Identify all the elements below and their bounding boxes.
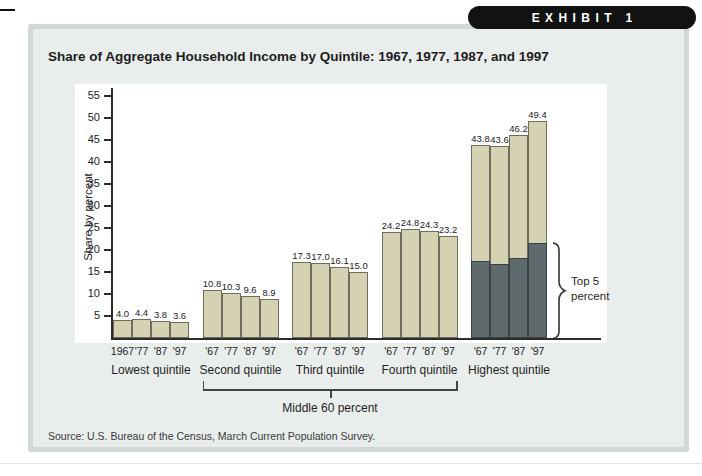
y-tick-mark xyxy=(104,227,111,229)
bar-value-label: 23.2 xyxy=(428,224,468,235)
top5-section-4 xyxy=(528,243,547,338)
bar-4-4 xyxy=(439,236,458,338)
page-bottom-rule xyxy=(0,463,702,464)
y-tick-label: 55 xyxy=(76,89,100,101)
middle60-bracket-right xyxy=(456,381,458,389)
y-tick-label: 5 xyxy=(76,309,100,321)
exhibit-page: EXHIBIT 1 Share of Aggregate Household I… xyxy=(0,0,702,476)
bar-3-2 xyxy=(311,263,330,338)
exhibit-banner: EXHIBIT 1 xyxy=(468,6,696,29)
bar-1-1 xyxy=(113,320,132,338)
bar-2-4 xyxy=(260,299,279,338)
y-tick-label: 50 xyxy=(76,111,100,123)
x-tick-label: '97 xyxy=(518,345,558,357)
bar-2-2 xyxy=(222,293,241,338)
top5-label-line1: Top 5 xyxy=(571,275,599,287)
y-tick-label: 20 xyxy=(76,243,100,255)
top5-section-1 xyxy=(471,261,490,338)
top5-brace xyxy=(551,241,569,340)
y-tick-mark xyxy=(104,161,111,163)
y-tick-label: 45 xyxy=(76,133,100,145)
middle60-label: Middle 60 percent xyxy=(230,401,430,415)
bar-value-label: 49.4 xyxy=(518,109,558,120)
top5-section-3 xyxy=(509,258,528,338)
bar-4-1 xyxy=(382,232,401,338)
x-axis-line xyxy=(111,338,601,340)
bar-1-4 xyxy=(170,322,189,338)
y-axis-line xyxy=(111,88,113,340)
exhibit-banner-label: EXHIBIT 1 xyxy=(526,11,637,25)
y-tick-mark xyxy=(104,139,111,141)
y-tick-mark xyxy=(104,205,111,207)
bar-2-1 xyxy=(203,290,222,338)
y-tick-label: 40 xyxy=(76,155,100,167)
top5-label-line2: percent xyxy=(571,290,609,302)
bar-value-label: 3.6 xyxy=(160,310,200,321)
top5-section-2 xyxy=(490,264,509,338)
y-tick-mark xyxy=(104,95,111,97)
bar-2-3 xyxy=(241,296,260,338)
y-tick-label: 30 xyxy=(76,199,100,211)
y-tick-label: 10 xyxy=(76,287,100,299)
group-label: Highest quintile xyxy=(434,363,584,377)
y-tick-label: 35 xyxy=(76,177,100,189)
middle60-bracket-left xyxy=(203,381,205,389)
chart-layer: 5101520253035404550554.019674.4'773.8'87… xyxy=(0,0,702,476)
y-tick-mark xyxy=(104,183,111,185)
bar-3-3 xyxy=(330,267,349,338)
y-tick-label: 25 xyxy=(76,221,100,233)
bar-4-2 xyxy=(401,229,420,338)
middle60-bracket-stem xyxy=(330,389,332,398)
bar-1-3 xyxy=(151,321,170,338)
y-tick-mark xyxy=(104,271,111,273)
source-note: Source: U.S. Bureau of the Census, March… xyxy=(48,430,375,442)
y-tick-mark xyxy=(104,249,111,251)
bar-value-label: 15.0 xyxy=(339,260,379,271)
bar-value-label: 8.9 xyxy=(249,287,289,298)
y-tick-mark xyxy=(104,117,111,119)
bar-3-4 xyxy=(349,272,368,338)
bar-3-1 xyxy=(292,262,311,338)
bar-1-2 xyxy=(132,319,151,338)
y-tick-label: 15 xyxy=(76,265,100,277)
bar-4-3 xyxy=(420,231,439,338)
y-tick-mark xyxy=(104,293,111,295)
